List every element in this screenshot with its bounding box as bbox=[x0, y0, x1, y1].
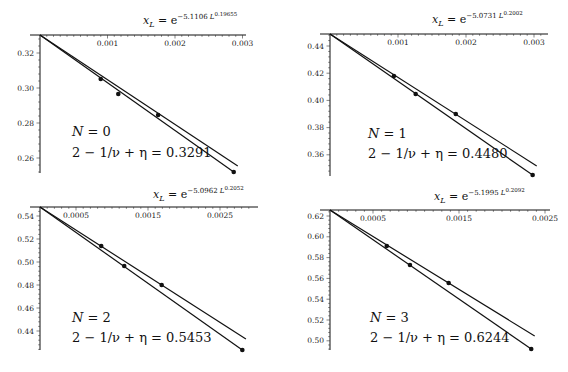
data-point bbox=[530, 173, 535, 178]
data-point bbox=[413, 92, 418, 97]
annotation-n: N = 2 bbox=[71, 310, 111, 325]
y-tick-label: 0.40 bbox=[307, 96, 324, 105]
data-point bbox=[156, 113, 161, 118]
y-tick-label: 0.50 bbox=[307, 336, 324, 345]
x-tick-label: 0.003 bbox=[523, 38, 545, 47]
fit-line bbox=[40, 207, 246, 339]
data-point bbox=[408, 263, 413, 268]
x-tick-label: 0.001 bbox=[387, 38, 408, 47]
data-point bbox=[392, 74, 397, 79]
data-point bbox=[231, 170, 236, 175]
y-tick-label: 0.30 bbox=[17, 84, 34, 93]
plot-panel-n0: 0.0010.0020.0030.320.300.280.26xL = e−5.… bbox=[17, 11, 253, 174]
y-tick-label: 0.38 bbox=[307, 123, 324, 132]
x-tick-label: 0.001 bbox=[97, 39, 118, 48]
figure-canvas: 0.0010.0020.0030.320.300.280.26xL = e−5.… bbox=[0, 0, 568, 372]
axis-title: xL = e−5.1995 L0.2092 bbox=[434, 187, 525, 205]
y-tick-label: 0.44 bbox=[307, 42, 324, 51]
x-tick-label: 0.002 bbox=[164, 39, 186, 48]
data-point bbox=[240, 348, 245, 353]
plot-panel-n3: 0.00050.00150.00250.620.600.580.560.540.… bbox=[307, 187, 558, 351]
x-tick-label: 0.003 bbox=[232, 39, 254, 48]
axis-title: xL = e−5.1106 L0.19655 bbox=[143, 11, 238, 29]
x-tick-label: 0.0005 bbox=[360, 214, 386, 223]
y-tick-label: 0.60 bbox=[307, 232, 324, 241]
y-tick-label: 0.42 bbox=[307, 69, 324, 78]
y-tick-label: 0.52 bbox=[307, 316, 324, 325]
plot-panel-n1: 0.0010.0020.0030.440.420.400.380.36xL = … bbox=[307, 10, 548, 177]
y-tick-label: 0.54 bbox=[17, 212, 34, 221]
y-tick-label: 0.36 bbox=[307, 150, 324, 159]
data-point bbox=[159, 283, 164, 288]
y-tick-label: 0.32 bbox=[17, 49, 34, 58]
y-tick-label: 0.52 bbox=[17, 235, 34, 244]
annotation-n: N = 1 bbox=[367, 126, 407, 141]
plot-panel-n2: 0.00050.00150.00250.540.520.500.480.460.… bbox=[17, 185, 258, 352]
data-point bbox=[454, 112, 459, 117]
x-tick-label: 0.0015 bbox=[446, 214, 472, 223]
x-tick-label: 0.0005 bbox=[63, 211, 89, 220]
x-tick-label: 0.0015 bbox=[135, 211, 161, 220]
data-point bbox=[446, 281, 451, 286]
data-point bbox=[529, 347, 534, 352]
fit-line bbox=[40, 207, 242, 350]
x-tick-label: 0.0025 bbox=[532, 214, 558, 223]
axis-title: xL = e−5.0962 L0.2052 bbox=[153, 185, 244, 203]
x-tick-label: 0.002 bbox=[455, 38, 477, 47]
data-point bbox=[98, 77, 103, 82]
x-tick-label: 0.0025 bbox=[207, 211, 233, 220]
y-tick-label: 0.54 bbox=[307, 295, 324, 304]
annotation-exponent: 2 − 1/ν + η = 0.6244 bbox=[370, 330, 510, 345]
y-tick-label: 0.48 bbox=[17, 281, 34, 290]
axis-title: xL = e−5.0731 L0.2002 bbox=[432, 10, 523, 28]
annotation-n: N = 3 bbox=[369, 310, 409, 325]
y-tick-label: 0.44 bbox=[17, 327, 34, 336]
fit-line bbox=[330, 210, 535, 336]
annotation-exponent: 2 − 1/ν + η = 0.3291 bbox=[72, 145, 212, 160]
y-tick-label: 0.58 bbox=[307, 253, 324, 262]
annotation-exponent: 2 − 1/ν + η = 0.5453 bbox=[72, 330, 212, 345]
fit-line bbox=[330, 210, 531, 349]
y-tick-label: 0.46 bbox=[17, 304, 34, 313]
data-point bbox=[384, 244, 389, 249]
data-point bbox=[99, 244, 104, 249]
annotation-n: N = 0 bbox=[71, 124, 111, 139]
data-point bbox=[116, 92, 121, 97]
data-point bbox=[122, 264, 127, 269]
annotation-exponent: 2 − 1/ν + η = 0.4480 bbox=[368, 146, 508, 161]
y-tick-label: 0.62 bbox=[307, 212, 324, 221]
y-tick-label: 0.56 bbox=[307, 274, 324, 283]
y-tick-label: 0.50 bbox=[17, 258, 34, 267]
y-tick-label: 0.28 bbox=[17, 119, 34, 128]
y-tick-label: 0.26 bbox=[17, 154, 34, 163]
